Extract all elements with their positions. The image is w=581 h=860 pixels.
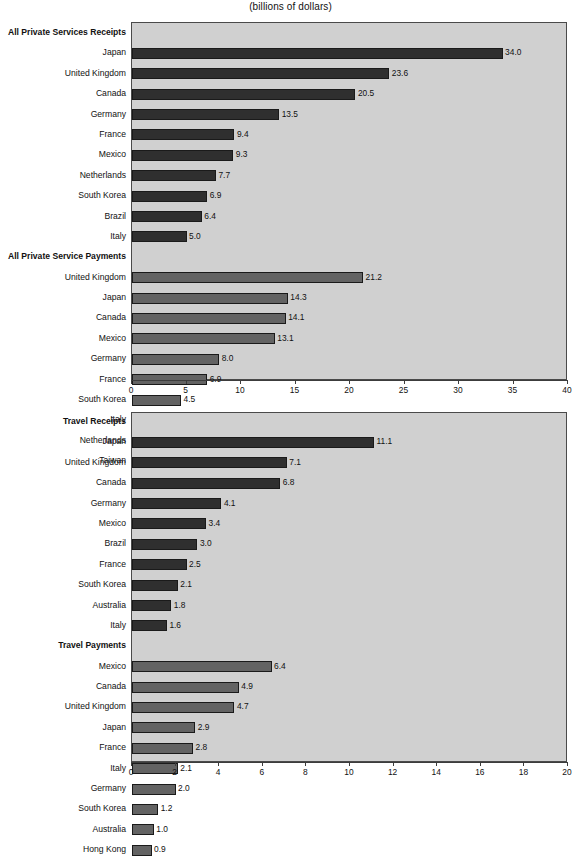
bar <box>132 293 288 304</box>
axis-tick-label: 18 <box>519 767 528 777</box>
bar-value-label: 14.3 <box>290 292 306 302</box>
bar <box>132 89 355 100</box>
bar <box>132 170 216 181</box>
axis-tick-label: 20 <box>344 385 353 395</box>
axis-tick <box>404 380 405 384</box>
bar-value-label: 5.0 <box>189 231 201 241</box>
bar-value-label: 2.1 <box>180 579 192 589</box>
bar-row: Italy1.6 <box>0 616 581 636</box>
category-label: United Kingdom <box>0 457 126 467</box>
bar <box>132 68 389 79</box>
category-label: South Korea <box>0 803 126 813</box>
bar <box>132 478 280 489</box>
bar-row: Canada6.8 <box>0 473 581 493</box>
bar <box>132 763 178 774</box>
axis-tick <box>480 762 481 766</box>
category-label: South Korea <box>0 579 126 589</box>
category-label: Canada <box>0 477 126 487</box>
bar-value-label: 9.3 <box>236 149 248 159</box>
bar <box>132 743 193 754</box>
axis-tick-label: 16 <box>475 767 484 777</box>
bar-value-label: 13.5 <box>282 109 298 119</box>
bar-value-label: 11.1 <box>376 436 392 446</box>
category-label: France <box>0 129 126 139</box>
bar-row: Germany8.0 <box>0 349 581 369</box>
bar-value-label: 34.0 <box>505 47 521 57</box>
category-label: Japan <box>0 436 126 446</box>
bar <box>132 784 176 795</box>
bar-value-label: 2.0 <box>178 783 190 793</box>
bar-value-label: 4.5 <box>184 394 196 404</box>
bar-row: Japan14.3 <box>0 288 581 308</box>
bar-value-label: 20.5 <box>358 88 374 98</box>
bar-value-label: 1.8 <box>174 600 186 610</box>
bar-row: Japan11.1 <box>0 432 581 452</box>
axis-tick <box>567 380 568 384</box>
category-label: Australia <box>0 824 126 834</box>
bar <box>132 722 195 733</box>
bar-value-label: 8.0 <box>222 353 234 363</box>
bar-value-label: 1.0 <box>156 824 168 834</box>
axis-tick-label: 25 <box>399 385 408 395</box>
group-header-row: Travel Receipts <box>0 412 581 432</box>
bar-value-label: 4.7 <box>237 701 249 711</box>
category-label: Netherlands <box>0 170 126 180</box>
bar-value-label: 3.0 <box>200 538 212 548</box>
group-header-row: Travel Payments <box>0 636 581 656</box>
bar-value-label: 13.1 <box>277 333 293 343</box>
bar-row: Mexico13.1 <box>0 329 581 349</box>
bar-row: Netherlands7.7 <box>0 166 581 186</box>
axis-tick <box>295 380 296 384</box>
page-title: (billions of dollars) <box>0 1 581 12</box>
bar-row: South Korea1.2 <box>0 799 581 819</box>
axis-tick-label: 0 <box>129 767 134 777</box>
category-label: United Kingdom <box>0 68 126 78</box>
bar-row: United Kingdom21.2 <box>0 268 581 288</box>
bar-value-label: 6.9 <box>210 374 222 384</box>
bar <box>132 559 187 570</box>
bar <box>132 150 233 161</box>
category-label: Mexico <box>0 661 126 671</box>
bar-value-label: 2.8 <box>196 742 208 752</box>
axis-tick <box>349 380 350 384</box>
category-label: Germany <box>0 109 126 119</box>
bar-row: Japan2.9 <box>0 718 581 738</box>
bar-row: South Korea6.9 <box>0 186 581 206</box>
bar-value-label: 2.5 <box>189 559 201 569</box>
bar <box>132 313 286 324</box>
axis-tick <box>523 762 524 766</box>
bar <box>132 580 178 591</box>
axis-tick-label: 5 <box>183 385 188 395</box>
bar <box>132 191 207 202</box>
group-header-label: All Private Services Receipts <box>0 27 126 37</box>
axis-tick <box>175 762 176 766</box>
chart-private-services: All Private Services ReceiptsJapan34.0Un… <box>0 22 581 394</box>
axis-tick-label: 40 <box>562 385 571 395</box>
bar-row: Japan34.0 <box>0 43 581 63</box>
bar-row: Brazil6.4 <box>0 207 581 227</box>
bar-value-label: 7.7 <box>218 170 230 180</box>
axis-tick-label: 14 <box>432 767 441 777</box>
category-label: Japan <box>0 292 126 302</box>
axis-tick-label: 15 <box>290 385 299 395</box>
bar-row: United Kingdom4.7 <box>0 697 581 717</box>
bar-row: Germany2.0 <box>0 779 581 799</box>
axis-tick-label: 10 <box>235 385 244 395</box>
axis-tick <box>305 762 306 766</box>
bar-value-label: 7.1 <box>289 457 301 467</box>
category-label: Canada <box>0 312 126 322</box>
bar-row: Canada14.1 <box>0 308 581 328</box>
bar <box>132 109 279 120</box>
bar <box>132 211 202 222</box>
bar <box>132 845 152 856</box>
category-label: France <box>0 374 126 384</box>
bar-row: Germany4.1 <box>0 494 581 514</box>
group-header-row: All Private Service Payments <box>0 247 581 267</box>
bar <box>132 129 234 140</box>
category-label: South Korea <box>0 190 126 200</box>
axis-tick <box>436 762 437 766</box>
category-label: Germany <box>0 783 126 793</box>
category-label: United Kingdom <box>0 701 126 711</box>
bar-row: United Kingdom7.1 <box>0 453 581 473</box>
